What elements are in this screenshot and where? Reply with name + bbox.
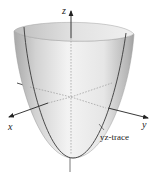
y-axis-label: y bbox=[141, 119, 147, 130]
yz-trace-label: yz-trace bbox=[100, 132, 129, 142]
z-axis-label: z bbox=[61, 5, 66, 16]
x-axis-label: x bbox=[7, 121, 13, 132]
paraboloid-diagram: z x y yz-trace bbox=[0, 0, 153, 175]
